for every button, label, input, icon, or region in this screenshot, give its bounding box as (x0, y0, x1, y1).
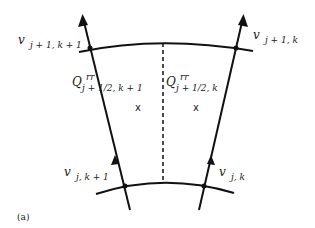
label-q-right-sub: j + 1/2, k (174, 83, 218, 93)
node-bottom-right (202, 184, 207, 189)
label-v-top-left: v j + 1, k + 1 (18, 29, 82, 50)
bottom-arc (96, 183, 234, 194)
label-v-bottom-left: v j, k + 1 (64, 161, 109, 182)
left-arrow-tip-icon (78, 14, 88, 27)
node-top-right (234, 46, 239, 51)
label-v-bottom-right: v j, k (219, 161, 245, 182)
label-q-left-sup: rr (86, 72, 95, 82)
figure-caption: (a) (17, 212, 29, 222)
label-q-left: Q (72, 75, 82, 89)
cell-center-right-marker: x (193, 102, 199, 113)
cell-center-left-marker: x (135, 102, 141, 113)
right-mid-arrow-icon (207, 155, 215, 165)
right-arrow-tip-icon (238, 14, 248, 27)
top-arc (79, 43, 253, 52)
cell-diagram: v j + 1, k + 1 v j + 1, k Q rr j + 1/2, … (0, 0, 315, 228)
label-v-top-right: v j + 1, k (253, 24, 298, 45)
label-q-left-sub: j + 1/2, k + 1 (80, 83, 143, 93)
node-bottom-left (123, 184, 128, 189)
node-top-left (88, 46, 93, 51)
label-q-right-sup: rr (180, 72, 189, 82)
label-q-right: Q (166, 75, 176, 89)
